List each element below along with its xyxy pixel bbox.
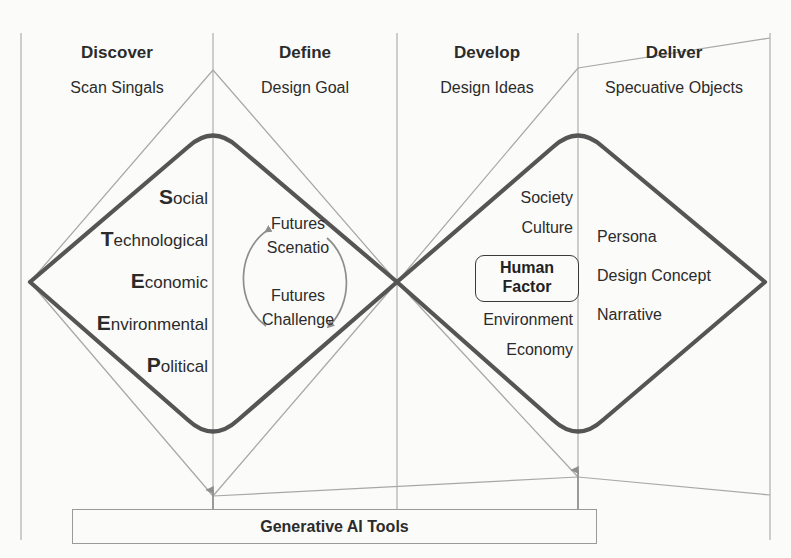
steep-item-political: Political bbox=[147, 354, 208, 376]
steep-item-economic: Economic bbox=[131, 270, 208, 292]
steep-item-technological: Technological bbox=[101, 228, 208, 250]
phase-subtitle-discover: Scan Singals bbox=[70, 80, 163, 97]
develop-item-economy: Economy bbox=[506, 342, 573, 359]
develop-item-environment: Environment bbox=[483, 312, 573, 329]
deliver-item-persona: Persona bbox=[597, 229, 657, 246]
phase-title-deliver: Deliver bbox=[646, 44, 703, 62]
generative-ai-tools-label: Generative AI Tools bbox=[260, 518, 408, 536]
guide-lower-diag bbox=[213, 477, 578, 496]
develop-item-society: Society bbox=[521, 190, 573, 207]
phase-subtitle-develop: Design Ideas bbox=[440, 80, 533, 97]
ai-feed-arrow-group bbox=[213, 470, 578, 509]
human-factor-highlight: Human Factor bbox=[475, 255, 579, 302]
steep-initial-p: P bbox=[147, 353, 161, 376]
steep-item-environmental: Environmental bbox=[97, 312, 208, 334]
human-factor-line2: Factor bbox=[486, 278, 568, 297]
deliver-item-design-concept: Design Concept bbox=[597, 268, 711, 285]
futures-challenge-line2: Challenge bbox=[262, 312, 334, 329]
steep-initial-s: S bbox=[159, 185, 173, 208]
steep-initial-e1: E bbox=[131, 269, 145, 292]
phase-subtitle-define: Design Goal bbox=[261, 80, 349, 97]
futures-scenario-line2: Scenatio bbox=[267, 240, 329, 257]
guide-upper-right bbox=[397, 38, 770, 282]
futures-scenario-line1: Futures bbox=[271, 216, 325, 233]
phase-title-discover: Discover bbox=[81, 44, 153, 62]
phase-title-develop: Develop bbox=[454, 44, 520, 62]
phase-subtitle-deliver: Specuative Objects bbox=[605, 80, 743, 97]
steep-rest-environmental: nvironmental bbox=[111, 315, 208, 334]
steep-item-social: Social bbox=[159, 186, 208, 208]
deliver-item-narrative: Narrative bbox=[597, 307, 662, 324]
guide-lower-right bbox=[578, 477, 770, 495]
human-factor-line1: Human bbox=[486, 259, 568, 278]
diagram-canvas: Discover Scan Singals Define Design Goal… bbox=[0, 0, 791, 558]
steep-rest-political: olitical bbox=[161, 357, 208, 376]
phase-title-define: Define bbox=[279, 44, 331, 62]
steep-rest-technological: echnological bbox=[113, 231, 208, 250]
steep-rest-social: ocial bbox=[173, 189, 208, 208]
generative-ai-tools-bar: Generative AI Tools bbox=[72, 509, 597, 544]
develop-item-culture: Culture bbox=[521, 220, 573, 237]
steep-rest-economic: conomic bbox=[145, 273, 208, 292]
steep-initial-t: T bbox=[101, 227, 114, 250]
futures-challenge-line1: Futures bbox=[271, 288, 325, 305]
steep-initial-e2: E bbox=[97, 311, 111, 334]
